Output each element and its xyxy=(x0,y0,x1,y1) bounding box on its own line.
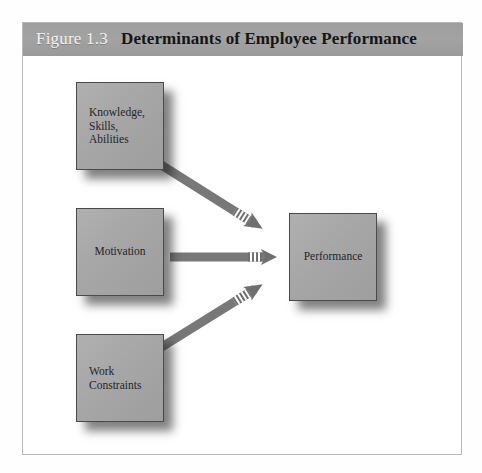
figure-number: Figure 1.3 xyxy=(36,29,108,49)
node-label: Knowledge, Skills, Abilities xyxy=(89,106,155,147)
diagram-canvas: Knowledge, Skills, Abilities Motivation … xyxy=(23,56,463,455)
arrow-motivation-to-performance xyxy=(170,249,277,265)
figure-title: Determinants of Employee Performance xyxy=(121,29,417,49)
node-motivation[interactable]: Motivation xyxy=(76,208,164,296)
node-performance[interactable]: Performance xyxy=(289,213,377,301)
node-work-constraints[interactable]: Work Constraints xyxy=(76,334,164,422)
figure-header: Figure 1.3 Determinants of Employee Perf… xyxy=(23,23,463,56)
node-label: Work Constraints xyxy=(89,365,155,392)
figure-frame: Figure 1.3 Determinants of Employee Perf… xyxy=(22,22,462,455)
figure-root: Figure 1.3 Determinants of Employee Perf… xyxy=(0,0,482,473)
node-label: Motivation xyxy=(77,245,163,259)
node-knowledge-skills-abilities[interactable]: Knowledge, Skills, Abilities xyxy=(76,82,164,170)
node-label: Performance xyxy=(290,250,376,264)
